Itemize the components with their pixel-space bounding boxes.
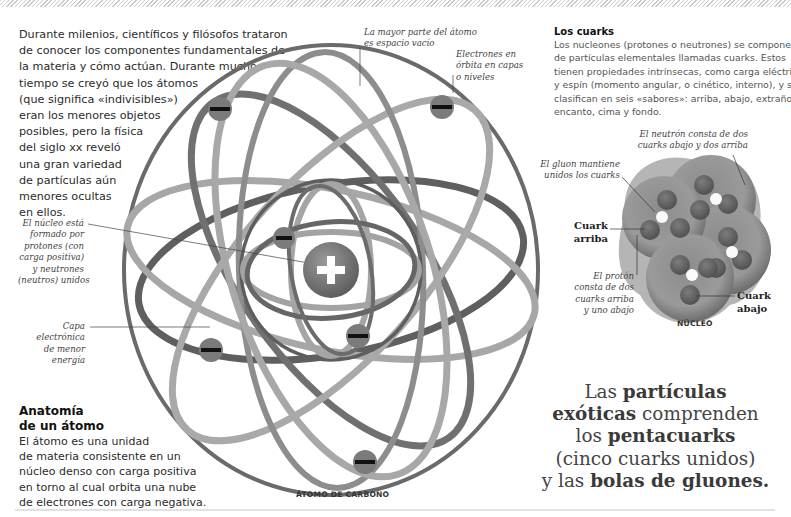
annotation-gluon: El gluon mantiene unidos los cuarks — [540, 159, 620, 182]
label-down-quark: Cuark abajo — [737, 289, 771, 315]
annotation-line: carga positiva) — [18, 252, 84, 263]
annotation-line: y neutrones — [18, 264, 84, 275]
electron-icon — [430, 95, 454, 119]
quarks-section: Los cuarks Los nucleones (protones o neu… — [554, 25, 784, 118]
annotation-line: electrónica — [30, 332, 85, 343]
atom-caption: ÁTOMO DE CARBONO — [296, 490, 389, 499]
annotation-line: órbita en capas — [456, 60, 523, 71]
text: comprenden — [636, 403, 758, 424]
callout-line: Las partículas — [520, 381, 791, 403]
emphasis: exóticas — [552, 403, 636, 424]
nucleus-positive — [303, 242, 359, 298]
electron-icon — [199, 338, 223, 362]
title-line: de un átomo — [19, 419, 206, 434]
emphasis: partículas — [623, 381, 727, 402]
annotation-line: Electrones en — [456, 49, 523, 60]
quarks-title: Los cuarks — [554, 25, 784, 38]
label-line: abajo — [737, 302, 771, 315]
nucleus-caption: NÚCLEO — [677, 319, 713, 328]
callout-line: exóticas comprenden — [520, 403, 791, 425]
exotic-particles-callout: Las partículas exóticas comprenden los p… — [520, 381, 791, 492]
annotation-line: formado por — [18, 229, 84, 240]
annotation-empty-space: La mayor parte del átomo es espacio vací… — [364, 27, 477, 50]
annotation-line: cuarks abajo y dos arriba — [620, 140, 748, 151]
annotation-line: El neutrón consta de dos — [620, 129, 748, 140]
emphasis: pentacuarks — [608, 425, 736, 446]
electron-icon — [346, 324, 370, 348]
body-line: en torno al cual orbita una nube — [19, 480, 206, 495]
annotation-line: El protón — [570, 271, 634, 282]
body-line: tienen propiedades intrínsecas, como car… — [554, 65, 784, 78]
annotation-line: y uno abajo — [570, 305, 634, 316]
annotation-neutron: El neutrón consta de dos cuarks abajo y … — [620, 129, 748, 152]
text: Las — [584, 381, 622, 402]
electron-icon — [353, 450, 377, 474]
annotation-line: unidos los cuarks — [540, 170, 620, 181]
annotation-nucleus: El núcleo está formado por protones (con… — [18, 218, 84, 286]
body-line: encanto, cima y fondo. — [554, 105, 784, 118]
annotation-inner-shell: Capa electrónica de menor energía — [30, 321, 85, 367]
electron-icon — [273, 227, 295, 249]
body-line: de electrones con carga negativa. — [19, 495, 206, 510]
label-line: arriba — [566, 232, 608, 245]
annotation-line: El gluon mantiene — [540, 159, 620, 170]
body-line: Los nucleones (protones o neutrones) se … — [554, 38, 784, 51]
anatomy-title: Anatomía de un átomo — [19, 404, 206, 434]
annotation-line: consta de dos — [570, 282, 634, 293]
title-line: Anatomía — [19, 404, 206, 419]
annotation-line: cuarks arriba — [570, 294, 634, 305]
bottom-divider — [15, 509, 775, 511]
emphasis: bolas de gluones. — [590, 470, 769, 491]
label-line: Cuark — [737, 289, 771, 302]
annotation-line: (neutros) unidos — [18, 275, 84, 286]
callout-line: y las bolas de gluones. — [520, 470, 791, 492]
text: los — [576, 425, 608, 446]
body-line: de partículas elementales llamadas cuark… — [554, 51, 784, 64]
callout-line: (cinco cuarks unidos) — [520, 448, 791, 470]
electron-icon — [208, 97, 232, 121]
annotation-line: de menor — [30, 344, 85, 355]
annotation-orbits: Electrones en órbita en capas o niveles — [456, 49, 523, 83]
body-line: núcleo denso con carga positiva — [19, 464, 206, 479]
annotation-line: energía — [30, 355, 85, 366]
annotation-line: protones (con — [18, 241, 84, 252]
body-line: El átomo es una unidad — [19, 434, 206, 449]
label-up-quark: Cuark arriba — [566, 219, 608, 245]
annotation-line: o niveles — [456, 72, 523, 83]
annotation-proton: El protón consta de dos cuarks arriba y … — [570, 271, 634, 317]
body-line: de materia consistente en un — [19, 449, 206, 464]
label-line: Cuark — [566, 219, 608, 232]
body-line: y espín (momento angular, o cinético, in… — [554, 78, 784, 91]
anatomy-section: Anatomía de un átomo El átomo es una uni… — [19, 404, 206, 510]
annotation-line: Capa — [30, 321, 85, 332]
body-line: clasifican en seis «sabores»: arriba, ab… — [554, 92, 784, 105]
annotation-line: La mayor parte del átomo — [364, 27, 477, 38]
annotation-line: El núcleo está — [18, 218, 84, 229]
text: y las — [542, 470, 590, 491]
callout-line: los pentacuarks — [520, 425, 791, 447]
